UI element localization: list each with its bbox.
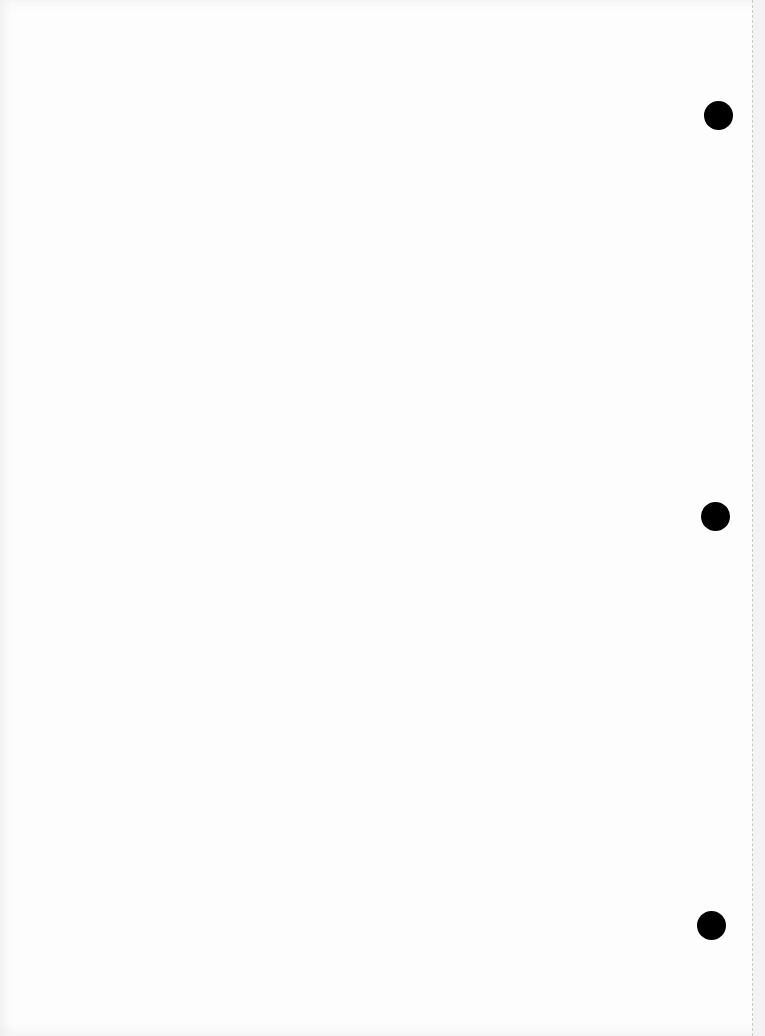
page-edge-strip (753, 0, 765, 1036)
scanned-page (0, 0, 765, 1036)
punch-hole-top-icon (704, 101, 733, 130)
punch-hole-middle-icon (701, 502, 730, 531)
punch-hole-bottom-icon (697, 911, 726, 940)
